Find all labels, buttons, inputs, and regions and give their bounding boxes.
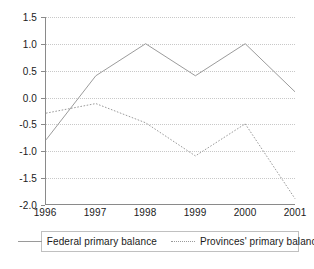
legend-entry: Federal primary balance	[18, 236, 157, 247]
x-axis-tick-label: 2000	[234, 207, 257, 218]
y-axis-tick	[41, 205, 45, 206]
x-axis: 199619971998199920002001	[0, 207, 314, 223]
series-line	[46, 104, 295, 199]
series-layer	[46, 17, 295, 204]
y-axis-tick-label: -1.0	[19, 146, 37, 157]
legend-entry: Provinces' primary balance	[171, 236, 314, 247]
legend-line-icon	[171, 241, 195, 242]
x-axis-tick-label: 2001	[284, 207, 307, 218]
y-axis-tick-label: 1.5	[23, 12, 37, 23]
y-axis-tick-label: -0.5	[19, 119, 37, 130]
chart-legend: Federal primary balanceProvinces' primar…	[41, 231, 299, 252]
plot-area	[45, 17, 295, 205]
legend-line-icon	[18, 241, 42, 242]
x-axis-tick-label: 1998	[134, 207, 157, 218]
x-axis-tick-label: 1997	[84, 207, 107, 218]
x-axis-tick-label: 1996	[34, 207, 57, 218]
y-axis-tick-label: 1.0	[23, 38, 37, 49]
series-line	[46, 44, 295, 140]
x-axis-tick-label: 1999	[184, 207, 207, 218]
y-axis-tick-label: 0.5	[23, 65, 37, 76]
legend-label: Federal primary balance	[47, 236, 157, 247]
y-axis-tick-label: 0.0	[23, 92, 37, 103]
y-axis: 1.51.00.50.0-0.5-1.0-1.5-2.0	[0, 0, 45, 206]
legend-label: Provinces' primary balance	[200, 236, 314, 247]
line-chart: 1.51.00.50.0-0.5-1.0-1.5-2.0 19961997199…	[0, 0, 314, 269]
y-axis-tick-label: -1.5	[19, 173, 37, 184]
